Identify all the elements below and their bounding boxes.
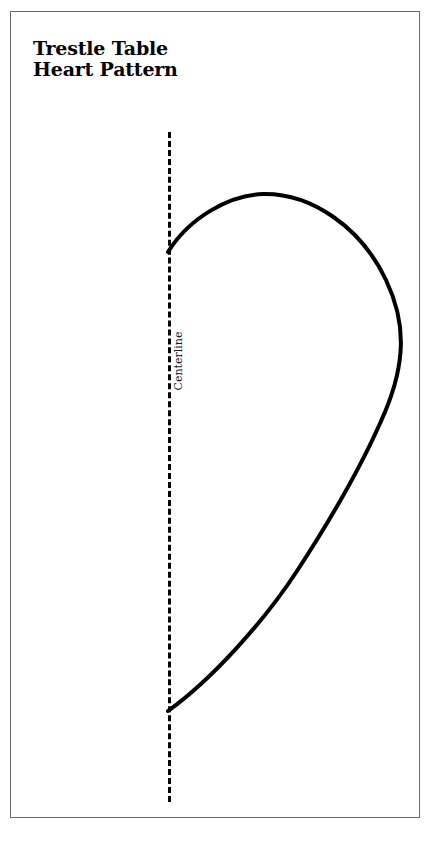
pattern-sheet-page: Trestle Table Heart Pattern Centerline xyxy=(0,0,446,851)
centerline-dashed-rule xyxy=(168,132,171,802)
centerline-label: Centerline xyxy=(172,321,188,401)
half-heart-pattern-drawing xyxy=(11,12,446,851)
pattern-frame: Trestle Table Heart Pattern Centerline xyxy=(10,11,420,818)
half-heart-curve-icon xyxy=(168,194,401,711)
page-title-line-2: Heart Pattern xyxy=(33,59,293,80)
page-title: Trestle Table Heart Pattern xyxy=(33,38,293,81)
page-title-line-1: Trestle Table xyxy=(33,38,293,59)
